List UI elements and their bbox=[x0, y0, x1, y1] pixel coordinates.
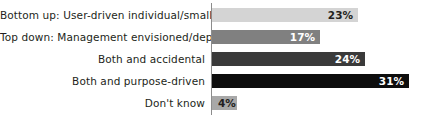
bar-track: 17% bbox=[212, 30, 320, 44]
category-label: Don't know bbox=[0, 96, 205, 110]
category-label: Both and accidental bbox=[0, 52, 205, 66]
bar-value-label: 4% bbox=[218, 96, 236, 110]
bar-track: 23% bbox=[212, 8, 358, 22]
category-axis-line bbox=[211, 3, 212, 115]
bar-track: 4% bbox=[212, 96, 237, 110]
bar-value-label: 24% bbox=[335, 52, 360, 66]
bar-value-label: 17% bbox=[290, 30, 315, 44]
category-label: Both and purpose-driven bbox=[0, 74, 205, 88]
bar-track: 31% bbox=[212, 74, 409, 88]
category-label: Top down: Management envisioned/deployed bbox=[0, 30, 205, 44]
bar-value-label: 23% bbox=[328, 8, 353, 22]
bar-chart: Bottom up: User-driven individual/small … bbox=[0, 0, 422, 120]
bar-track: 24% bbox=[212, 52, 365, 66]
bar-value-label: 31% bbox=[379, 74, 404, 88]
category-label: Bottom up: User-driven individual/small … bbox=[0, 8, 205, 22]
